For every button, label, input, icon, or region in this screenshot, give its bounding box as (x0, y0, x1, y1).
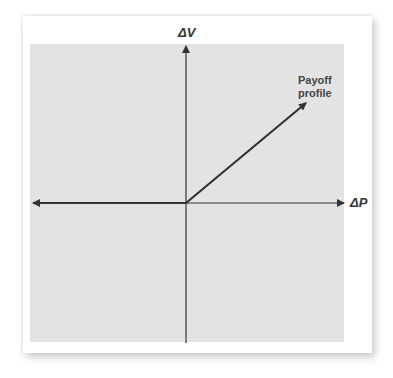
payoff-profile-label: Payoff profile (298, 74, 332, 100)
payoff-rising-segment (186, 103, 306, 203)
payoff-diagram (0, 0, 393, 378)
horizontal-axis-label: ΔP (350, 195, 367, 210)
vertical-axis-label: ΔV (178, 25, 195, 40)
payoff-label-line1: Payoff (298, 74, 332, 87)
payoff-label-line2: profile (298, 87, 332, 100)
